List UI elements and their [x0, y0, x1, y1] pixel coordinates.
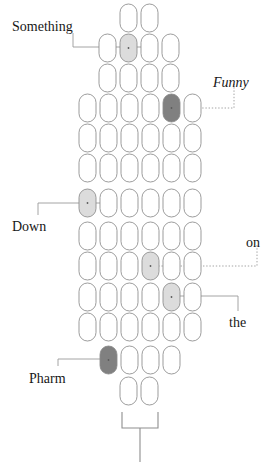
- capsule[interactable]: [184, 313, 201, 341]
- capsule-anchor-dot: [171, 107, 173, 109]
- capsule[interactable]: [121, 94, 138, 122]
- capsule-row: [120, 4, 158, 32]
- capsule[interactable]: [99, 34, 116, 62]
- capsule-row: [79, 94, 201, 122]
- capsule-row: [79, 313, 201, 341]
- capsule[interactable]: [120, 377, 137, 405]
- capsule[interactable]: [100, 222, 117, 250]
- capsule[interactable]: [184, 94, 201, 122]
- capsule[interactable]: [120, 4, 137, 32]
- capsule[interactable]: [121, 313, 138, 341]
- capsule[interactable]: [142, 313, 159, 341]
- capsule-row: [120, 377, 158, 405]
- capsule[interactable]: [142, 154, 159, 182]
- capsule[interactable]: [184, 222, 201, 250]
- capsule-anchor-dot: [171, 296, 173, 298]
- capsule[interactable]: [100, 94, 117, 122]
- capsule-row: [79, 222, 201, 250]
- capsule-anchor-dot: [128, 47, 130, 49]
- capsule[interactable]: [79, 252, 96, 280]
- capsule[interactable]: [79, 313, 96, 341]
- capsule[interactable]: [163, 252, 180, 280]
- capsule[interactable]: [163, 154, 180, 182]
- label-the: the: [229, 316, 246, 330]
- capsule[interactable]: [79, 154, 96, 182]
- capsule[interactable]: [141, 4, 158, 32]
- capsule[interactable]: [121, 346, 138, 374]
- capsule[interactable]: [121, 124, 138, 152]
- capsule[interactable]: [163, 346, 180, 374]
- capsule[interactable]: [141, 377, 158, 405]
- label-down: Down: [12, 220, 46, 234]
- capsule[interactable]: [121, 222, 138, 250]
- label-on: on: [246, 236, 260, 250]
- capsule[interactable]: [100, 313, 117, 341]
- capsule[interactable]: [121, 252, 138, 280]
- capsule[interactable]: [141, 34, 158, 62]
- capsule[interactable]: [142, 283, 159, 311]
- bottom-bracket: [122, 412, 158, 462]
- bracket-group: [122, 412, 158, 462]
- capsule[interactable]: [79, 283, 96, 311]
- capsule[interactable]: [100, 124, 117, 152]
- capsule-anchor-dot: [87, 202, 89, 204]
- capsule[interactable]: [184, 189, 201, 217]
- capsule[interactable]: [163, 222, 180, 250]
- capsule[interactable]: [184, 154, 201, 182]
- label-pharm: Pharm: [29, 372, 66, 386]
- capsule[interactable]: [141, 64, 158, 92]
- capsule[interactable]: [100, 154, 117, 182]
- capsule[interactable]: [79, 124, 96, 152]
- capsule-anchor-dot: [108, 359, 110, 361]
- capsule[interactable]: [120, 64, 137, 92]
- capsule-row: [99, 64, 179, 92]
- capsule[interactable]: [100, 189, 117, 217]
- capsule-row: [79, 283, 201, 311]
- label-funny: Funny: [213, 76, 249, 90]
- capsule[interactable]: [163, 124, 180, 152]
- capsule-row: [100, 346, 180, 374]
- capsule[interactable]: [142, 124, 159, 152]
- capsules-group: [79, 4, 201, 405]
- capsule-row: [79, 124, 201, 152]
- capsule[interactable]: [142, 346, 159, 374]
- capsule-row: [79, 154, 201, 182]
- capsule[interactable]: [100, 283, 117, 311]
- capsule[interactable]: [121, 189, 138, 217]
- capsule[interactable]: [184, 283, 201, 311]
- leader-the: [171, 296, 238, 311]
- capsule[interactable]: [121, 283, 138, 311]
- capsule[interactable]: [184, 124, 201, 152]
- capsule[interactable]: [100, 252, 117, 280]
- capsule[interactable]: [121, 154, 138, 182]
- capsule[interactable]: [142, 189, 159, 217]
- capsule-row: [79, 252, 201, 280]
- capsule-row: [99, 34, 179, 62]
- capsule[interactable]: [163, 313, 180, 341]
- capsule[interactable]: [79, 222, 96, 250]
- capsule[interactable]: [79, 94, 96, 122]
- capsule[interactable]: [142, 94, 159, 122]
- capsule[interactable]: [184, 252, 201, 280]
- capsule-anchor-dot: [150, 265, 152, 267]
- capsule[interactable]: [163, 189, 180, 217]
- capsule[interactable]: [99, 64, 116, 92]
- capsule[interactable]: [162, 64, 179, 92]
- label-something: Something: [12, 20, 73, 34]
- capsule[interactable]: [142, 222, 159, 250]
- capsule[interactable]: [162, 34, 179, 62]
- figure-canvas: SomethingFunnyDownonthePharm: [0, 0, 272, 463]
